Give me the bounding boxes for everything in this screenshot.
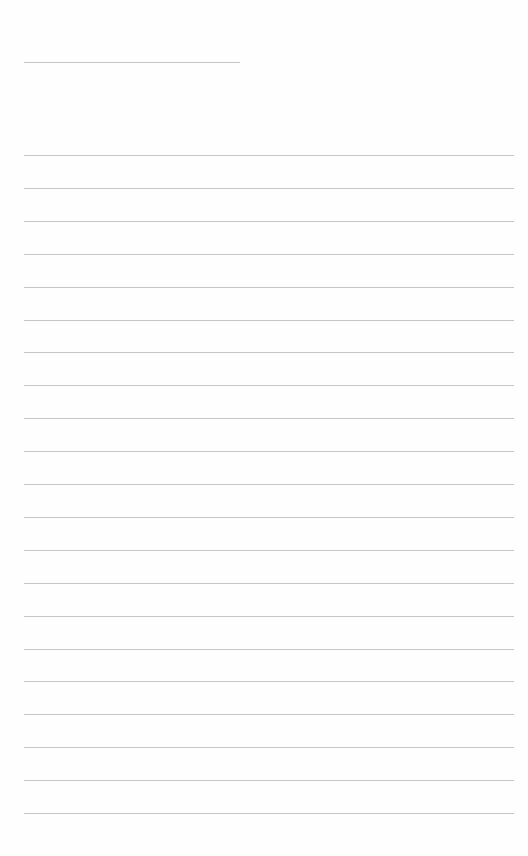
ruled-line	[24, 747, 514, 748]
ruled-line	[24, 550, 514, 551]
ruled-line	[24, 254, 514, 255]
ruled-line	[24, 188, 514, 189]
ruled-line	[24, 221, 514, 222]
lined-paper-page	[0, 0, 528, 856]
ruled-line	[24, 714, 514, 715]
ruled-line	[24, 484, 514, 485]
ruled-line	[24, 780, 514, 781]
ruled-line	[24, 418, 514, 419]
ruled-line	[24, 616, 514, 617]
header-write-line	[24, 62, 240, 63]
ruled-line	[24, 352, 514, 353]
ruled-line	[24, 813, 514, 814]
ruled-line	[24, 320, 514, 321]
ruled-line	[24, 155, 514, 156]
ruled-line	[24, 517, 514, 518]
ruled-line	[24, 649, 514, 650]
ruled-line	[24, 385, 514, 386]
ruled-line	[24, 583, 514, 584]
ruled-line	[24, 681, 514, 682]
ruled-line	[24, 451, 514, 452]
ruled-line	[24, 287, 514, 288]
